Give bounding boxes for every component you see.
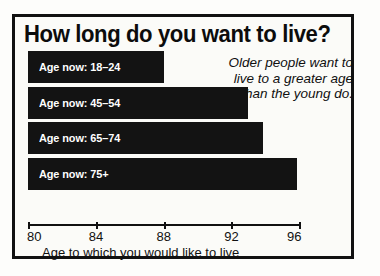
x-axis-tick [96,222,98,229]
chart-card: How long do you want to live? Older peop… [12,14,354,259]
bar-row: Age now: 45–54 [28,87,299,119]
plot-area: Age now: 18–24Age now: 45–54Age now: 65–… [28,51,299,224]
chart-title: How long do you want to live? [24,21,333,48]
x-axis-tick [231,222,233,229]
bar-label: Age now: 18–24 [39,51,120,83]
x-axis-tick [164,222,166,229]
bar-row: Age now: 18–24 [28,51,299,83]
x-axis-tick-label: 80 [27,229,41,244]
x-axis-tick-label: 92 [224,229,238,244]
bar-row: Age now: 65–74 [28,122,299,154]
x-axis-tick-label: 96 [287,229,301,244]
bar-row: Age now: 75+ [28,158,299,190]
bar-label: Age now: 45–54 [39,87,120,119]
x-axis-title: Age to which you would like to live [42,245,239,260]
bar-label: Age now: 65–74 [39,122,120,154]
x-axis-tick [299,222,301,229]
x-axis-tick [28,222,30,229]
x-axis-tick-label: 88 [157,229,171,244]
bar-label: Age now: 75+ [39,158,109,190]
x-axis-tick-label: 84 [89,229,103,244]
